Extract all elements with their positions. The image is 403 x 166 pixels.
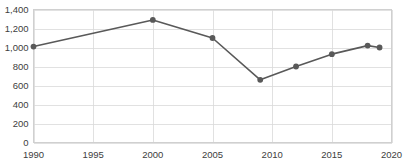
y-tick-label-400: 400 [13, 99, 29, 110]
y-tick-label-1000: 1,000 [5, 42, 29, 53]
y-tick-label-1400: 1,400 [5, 4, 29, 15]
chart-canvas: 02004006008001,0001,2001,400 19901995200… [0, 0, 403, 166]
data-point-2012 [293, 64, 299, 70]
data-point-2019 [377, 45, 383, 51]
x-tick-label-2010: 2010 [262, 149, 283, 160]
y-axis-tick-labels: 02004006008001,0001,2001,400 [5, 4, 29, 148]
gridlines-horizontal [34, 11, 392, 144]
data-point-markers [31, 17, 383, 83]
x-tick-label-1995: 1995 [83, 149, 104, 160]
y-tick-label-200: 200 [13, 118, 29, 129]
y-tick-label-1200: 1,200 [5, 23, 29, 34]
x-tick-label-1990: 1990 [23, 149, 44, 160]
y-tick-label-0: 0 [23, 137, 28, 148]
line-chart: 02004006008001,0001,2001,400 19901995200… [0, 0, 403, 166]
data-point-2018 [365, 43, 371, 49]
data-point-2005 [210, 35, 216, 41]
data-point-2015 [329, 51, 335, 57]
x-axis-tick-labels: 1990199520002005201020152020 [23, 149, 402, 160]
y-tick-label-600: 600 [13, 80, 29, 91]
x-tick-label-2015: 2015 [321, 149, 342, 160]
data-point-2000 [150, 17, 156, 23]
data-point-1990 [31, 44, 37, 50]
x-tick-label-2000: 2000 [142, 149, 163, 160]
data-series-line [34, 20, 380, 80]
data-point-2009 [257, 77, 263, 83]
x-tick-label-2020: 2020 [381, 149, 402, 160]
x-tick-label-2005: 2005 [202, 149, 223, 160]
y-tick-label-800: 800 [13, 61, 29, 72]
